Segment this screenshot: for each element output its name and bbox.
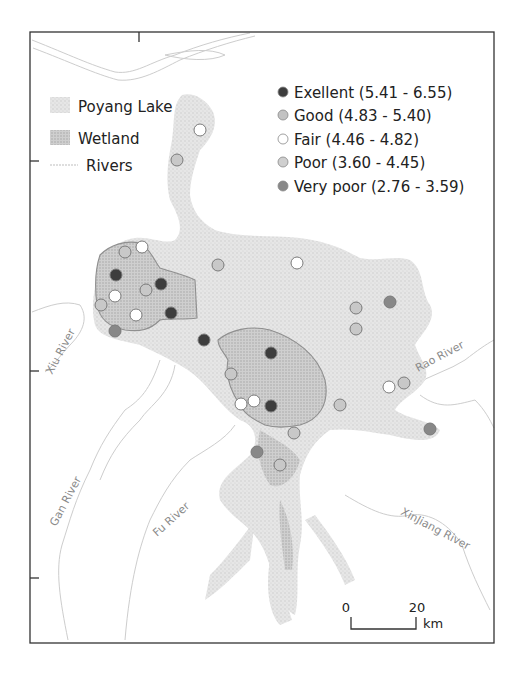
fair-dot-icon bbox=[278, 134, 288, 144]
site-marker-excellent bbox=[265, 347, 277, 359]
site-marker-very-poor bbox=[251, 446, 263, 458]
site-marker-poor bbox=[274, 459, 286, 471]
site-marker-fair bbox=[248, 395, 260, 407]
layer-legend: Poyang Lake Wetland Rivers bbox=[50, 97, 172, 175]
site-marker-poor bbox=[95, 299, 107, 311]
site-marker-fair bbox=[109, 290, 121, 302]
scale-unit-label: km bbox=[423, 616, 443, 631]
class-legend-labels: Exellent (5.41 - 6.55) Good (4.83 - 5.40… bbox=[294, 84, 464, 196]
gan-river-label: Gan River bbox=[47, 474, 84, 528]
site-marker-excellent bbox=[198, 334, 210, 346]
xiu-river-label: Xiu River bbox=[43, 326, 78, 376]
legend-good-label: Good (4.83 - 5.40) bbox=[294, 107, 432, 125]
site-marker-poor bbox=[334, 399, 346, 411]
site-marker-excellent bbox=[165, 307, 177, 319]
good-dot-icon bbox=[278, 110, 288, 120]
site-marker-poor bbox=[350, 323, 362, 335]
rao-river-label: Rao River bbox=[413, 338, 466, 375]
gan-river bbox=[59, 360, 160, 640]
site-marker-fair bbox=[194, 124, 206, 136]
site-marker-poor bbox=[225, 368, 237, 380]
lake-swatch-icon bbox=[50, 97, 70, 113]
site-marker-very-poor bbox=[109, 325, 121, 337]
legend-very-poor-label: Very poor (2.76 - 3.59) bbox=[294, 178, 464, 196]
site-marker-poor bbox=[212, 259, 224, 271]
legend-rivers-label: Rivers bbox=[86, 157, 133, 175]
legend-lake-label: Poyang Lake bbox=[78, 98, 172, 116]
site-marker-very-poor bbox=[384, 296, 396, 308]
site-marker-poor bbox=[398, 377, 410, 389]
poyang-lake-map: Poyang Lake Wetland Rivers Exellent (5.4… bbox=[0, 0, 524, 678]
site-marker-poor bbox=[119, 246, 131, 258]
poor-dot-icon bbox=[278, 157, 288, 167]
legend-excellent-label: Exellent (5.41 - 6.55) bbox=[294, 84, 452, 102]
legend-fair-label: Fair (4.46 - 4.82) bbox=[294, 131, 419, 149]
site-marker-fair bbox=[383, 381, 395, 393]
scale-end-label: 20 bbox=[409, 600, 426, 615]
site-marker-excellent bbox=[110, 269, 122, 281]
excellent-dot-icon bbox=[278, 87, 288, 97]
class-legend bbox=[278, 87, 288, 191]
site-marker-excellent bbox=[265, 400, 277, 412]
wetland-swatch-icon bbox=[50, 130, 70, 145]
fu-river bbox=[125, 425, 235, 640]
site-marker-fair bbox=[235, 398, 247, 410]
site-marker-very-poor bbox=[424, 423, 436, 435]
site-marker-poor bbox=[171, 154, 183, 166]
legend-poor-label: Poor (3.60 - 4.45) bbox=[294, 154, 425, 172]
scale-start-label: 0 bbox=[342, 600, 350, 615]
site-marker-poor bbox=[350, 302, 362, 314]
site-marker-fair bbox=[136, 241, 148, 253]
site-marker-fair bbox=[130, 309, 142, 321]
scale-bar: 0 20 km bbox=[342, 600, 443, 631]
xinjiang-river-label: XinJiang River bbox=[399, 505, 473, 553]
very-poor-dot-icon bbox=[278, 181, 288, 191]
legend-wetland-label: Wetland bbox=[78, 130, 139, 148]
site-marker-fair bbox=[291, 257, 303, 269]
site-marker-poor bbox=[288, 427, 300, 439]
site-marker-poor bbox=[140, 284, 152, 296]
site-marker-excellent bbox=[155, 278, 167, 290]
fu-river-label: Fu River bbox=[150, 499, 192, 539]
